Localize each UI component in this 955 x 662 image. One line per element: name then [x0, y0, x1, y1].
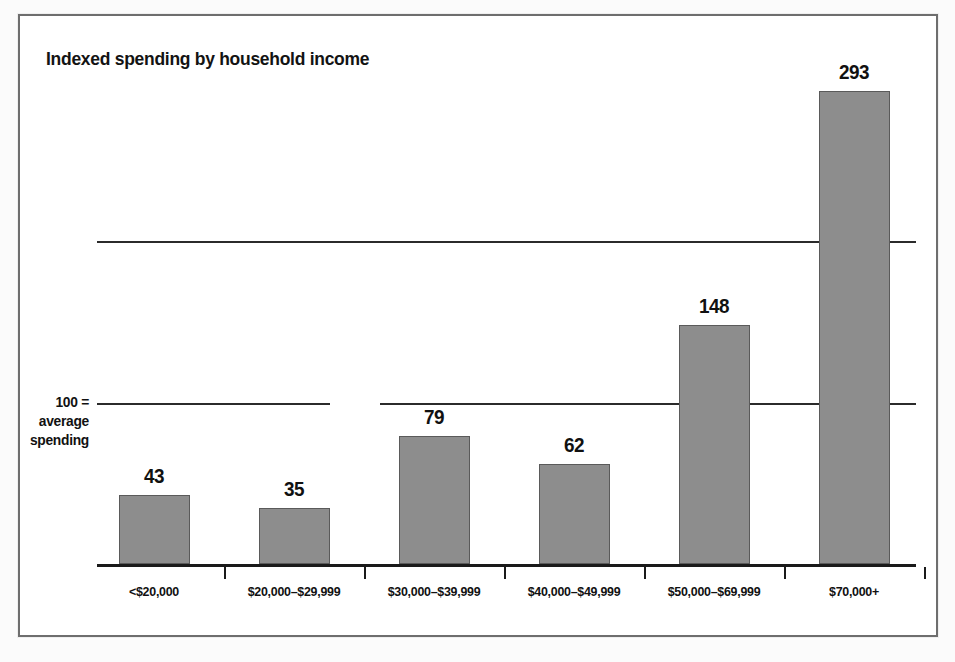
bar-value-label: 35 [249, 477, 339, 501]
gridline-tick-100 [902, 403, 916, 405]
x-axis-tick [504, 567, 506, 579]
gridline-tick-200 [902, 241, 916, 243]
bar[interactable] [539, 464, 610, 564]
category-label: $30,000–$39,999 [360, 584, 507, 599]
category-label: $40,000–$49,999 [500, 584, 647, 599]
gridline-100 [97, 403, 330, 405]
x-axis-line [97, 564, 916, 567]
baseline-annotation-line: 100 = [0, 392, 89, 411]
figure-page: Indexed spending by household income 433… [0, 0, 955, 662]
baseline-annotation-line: average [0, 411, 89, 430]
x-axis-tick [644, 567, 646, 579]
category-label: <$20,000 [80, 584, 227, 599]
bar[interactable] [819, 91, 890, 564]
bar[interactable] [259, 508, 330, 564]
bar[interactable] [679, 325, 750, 564]
figure-frame: Indexed spending by household income 433… [18, 14, 938, 637]
baseline-annotation-line: spending [0, 430, 89, 449]
category-label: $50,000–$69,999 [640, 584, 787, 599]
category-label: $70,000+ [780, 584, 927, 599]
baseline-annotation: 100 =averagespending [0, 392, 89, 450]
x-axis-tick [364, 567, 366, 579]
bar-value-label: 79 [389, 405, 479, 429]
x-axis-tick [784, 567, 786, 579]
gridline-200 [97, 241, 902, 243]
bar-value-label: 62 [529, 433, 619, 457]
bar[interactable] [119, 495, 190, 564]
bar-value-label: 43 [109, 464, 199, 488]
x-axis-tick [924, 567, 926, 579]
category-label: $20,000–$29,999 [220, 584, 367, 599]
bar-value-label: 293 [809, 60, 899, 84]
plot-area: 43357962148293<$20,000$20,000–$29,999$30… [20, 16, 940, 639]
bar-value-label: 148 [669, 294, 759, 318]
x-axis-tick [224, 567, 226, 579]
bar[interactable] [399, 436, 470, 564]
